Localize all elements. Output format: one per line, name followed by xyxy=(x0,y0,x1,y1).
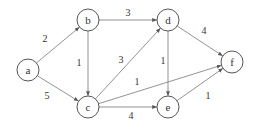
edge-weight-d-e: 1 xyxy=(161,55,166,66)
edge-c-d xyxy=(95,28,160,99)
edge-weight-b-d: 3 xyxy=(126,7,131,18)
node-label: c xyxy=(86,101,91,113)
edge-weight-a-b: 2 xyxy=(43,33,48,44)
node-label: b xyxy=(85,14,91,26)
edge-e-f xyxy=(177,68,223,100)
weighted-directed-graph: 2513314141 abcdef xyxy=(0,0,253,129)
node-c: c xyxy=(77,96,99,118)
node-label: f xyxy=(230,56,234,68)
node-label: d xyxy=(165,14,171,26)
node-label: a xyxy=(26,64,31,76)
edge-d-f xyxy=(177,26,223,56)
edge-c-f xyxy=(98,65,221,103)
edge-weight-c-d: 3 xyxy=(119,54,124,65)
node-b: b xyxy=(77,9,99,31)
node-e: e xyxy=(157,96,179,118)
node-d: d xyxy=(157,9,179,31)
edge-weight-a-c: 5 xyxy=(45,90,50,101)
edge-weight-d-f: 4 xyxy=(202,25,207,36)
edge-weight-b-c: 1 xyxy=(77,57,82,68)
node-f: f xyxy=(221,51,243,73)
edge-weight-c-e: 4 xyxy=(129,110,134,121)
edge-weight-c-f: 1 xyxy=(135,76,140,87)
node-a: a xyxy=(17,59,39,81)
edge-weight-e-f: 1 xyxy=(206,90,211,101)
node-label: e xyxy=(166,101,171,113)
